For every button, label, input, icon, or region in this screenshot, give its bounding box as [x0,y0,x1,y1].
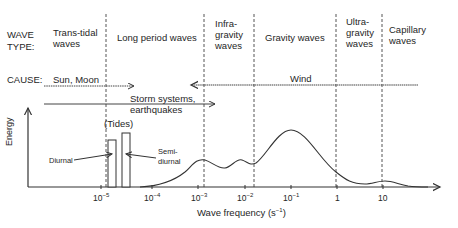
semidiurnal-bar [122,133,130,187]
y-axis-label: Energy [4,117,15,146]
wave-type-capillary: Capillary waves [389,24,426,46]
tick-label: 10−3 [191,193,207,203]
diurnal-label: Diurnal [49,155,73,166]
tick-label: 10−1 [283,193,299,203]
tick-label: 10−2 [237,193,253,203]
tick-label: 10−5 [93,193,109,203]
cause-label: CAUSE: [7,74,42,85]
tick-label: 1 [335,193,340,203]
wave-type-ultragravity: Ultra- gravity waves [346,16,374,49]
tides-label: (Tides) [104,118,133,129]
semidiurnal-label: Semi- diurnal [158,147,181,167]
diurnal-bar [108,140,116,187]
type-label: TYPE: [7,41,34,52]
tick-label: 10−4 [144,193,160,203]
wave-type-long-period: Long period waves [117,32,197,43]
wave-type-gravity: Gravity waves [265,32,325,43]
cause-sun-moon: Sun, Moon [53,74,99,85]
wave-type-infragravity: Infra- gravity waves [215,18,243,51]
energy-curve [140,130,428,187]
tick-label: 10 [378,193,387,203]
wave-type-trans-tidal: Trans-tidal waves [53,27,98,49]
x-axis-label: Wave frequency (s−1) [197,207,286,218]
wave-label: WAVE [7,29,34,40]
cause-storm: Storm systems, earthquakes [130,93,195,115]
cause-wind: Wind [290,73,312,84]
